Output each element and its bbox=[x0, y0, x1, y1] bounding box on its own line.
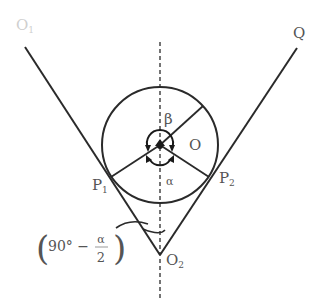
diagram-canvas: O1 Q β O α P1 P2 O2 ( 90° − α 2 ) bbox=[0, 0, 319, 299]
svg-text:90° −: 90° − bbox=[48, 238, 89, 254]
label-alpha: α bbox=[166, 175, 174, 188]
radius-to-p2 bbox=[160, 145, 209, 177]
label-p2: P2 bbox=[219, 169, 235, 188]
label-q: Q bbox=[293, 24, 305, 42]
label-o2: O2 bbox=[166, 251, 184, 270]
angle-expression: ( 90° − α 2 ) bbox=[36, 228, 126, 268]
svg-text:α: α bbox=[97, 233, 105, 246]
svg-text:2: 2 bbox=[97, 250, 105, 265]
label-beta: β bbox=[164, 110, 173, 128]
label-p1: P1 bbox=[92, 176, 108, 195]
radius-to-p1 bbox=[111, 145, 160, 177]
label-o1: O1 bbox=[16, 16, 34, 35]
label-center-o: O bbox=[189, 136, 201, 154]
svg-text:): ) bbox=[113, 228, 126, 268]
left-tangent-line bbox=[25, 47, 160, 255]
right-tangent-line bbox=[160, 48, 297, 255]
